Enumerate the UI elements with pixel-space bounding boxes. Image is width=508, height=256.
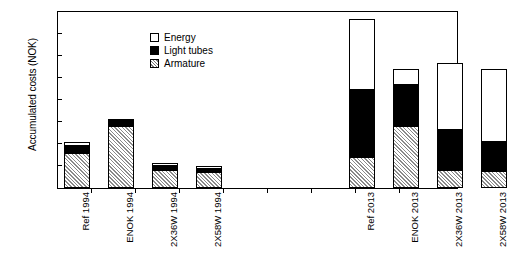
bar-segment-armature — [481, 171, 507, 188]
bar-enok-2013 — [393, 69, 419, 188]
legend-label-energy: Energy — [164, 31, 196, 44]
bar-2x36w-1994 — [152, 163, 178, 188]
legend-item-armature: Armature — [150, 57, 213, 70]
x-tick-mark-3 — [179, 188, 180, 193]
y-axis-title: Accumulated costs (NOK) — [27, 0, 38, 190]
x-tick-mark-4 — [223, 188, 224, 193]
bar-segment-energy — [108, 119, 134, 121]
x-tick-mark-5 — [267, 188, 268, 193]
bar-segment-energy — [393, 69, 419, 84]
bar-segment-light-tubes — [108, 121, 134, 126]
y-tick-mark-5000 — [58, 165, 62, 166]
y-tick-mark-30000 — [58, 55, 62, 56]
bar-segment-energy — [64, 142, 90, 146]
legend-swatch-light-tubes-icon — [150, 46, 159, 55]
bar-ref-2013 — [349, 19, 375, 188]
x-tick-label-ref-2013: Ref 2013 — [366, 192, 376, 256]
bar-2x36w-2013 — [437, 63, 463, 188]
bar-segment-light-tubes — [349, 90, 375, 157]
y-tick-mark-10000 — [58, 143, 62, 144]
legend-label-armature: Armature — [164, 57, 205, 70]
bar-segment-energy — [152, 163, 178, 166]
bar-segment-armature — [196, 172, 222, 188]
bar-segment-energy — [481, 69, 507, 142]
x-tick-label-2x58w-1994: 2X58W 1994 — [213, 192, 223, 256]
x-tick-label-2x36w-1994: 2X36W 1994 — [169, 192, 179, 256]
legend-item-light-tubes: Light tubes — [150, 44, 213, 57]
bar-segment-light-tubes — [152, 166, 178, 170]
bar-segment-light-tubes — [481, 142, 507, 172]
x-tick-mark-1 — [91, 188, 92, 193]
x-tick-mark-7 — [355, 188, 356, 193]
bar-segment-energy — [437, 63, 463, 130]
x-tick-label-2x58w-2013: 2X58W 2013 — [498, 192, 508, 256]
bar-segment-energy — [349, 19, 375, 91]
bar-segment-armature — [349, 157, 375, 188]
legend-swatch-armature-icon — [150, 59, 159, 68]
x-tick-mark-8 — [399, 188, 400, 193]
y-tick-mark-20000 — [58, 99, 62, 100]
bar-segment-armature — [393, 126, 419, 189]
bar-segment-armature — [108, 126, 134, 189]
legend-label-light-tubes: Light tubes — [164, 44, 213, 57]
chart-legend: Energy Light tubes Armature — [150, 31, 213, 70]
x-tick-label-2x36w-2013: 2X36W 2013 — [454, 192, 464, 256]
bar-2x58w-1994 — [196, 166, 222, 188]
y-tick-mark-25000 — [58, 77, 62, 78]
bar-segment-armature — [437, 170, 463, 189]
bar-segment-light-tubes — [393, 85, 419, 126]
plot-area: Energy Light tubes Armature — [57, 11, 458, 189]
x-tick-label-ref-1994: Ref 1994 — [81, 192, 91, 256]
y-tick-mark-15000 — [58, 121, 62, 122]
bar-segment-energy — [196, 166, 222, 169]
bar-segment-light-tubes — [64, 146, 90, 153]
bar-enok-1994 — [108, 120, 134, 188]
bar-segment-light-tubes — [437, 130, 463, 170]
legend-item-energy: Energy — [150, 31, 213, 44]
bar-segment-light-tubes — [196, 169, 222, 172]
x-tick-label-enok-1994: ENOK 1994 — [125, 192, 135, 256]
bar-2x58w-2013 — [481, 69, 507, 188]
bar-segment-armature — [64, 153, 90, 188]
legend-swatch-energy-icon — [150, 33, 159, 42]
bar-segment-armature — [152, 170, 178, 188]
x-tick-mark-2 — [135, 188, 136, 193]
x-tick-mark-6 — [311, 188, 312, 193]
bar-ref-1994 — [64, 142, 90, 188]
x-tick-label-enok-2013: ENOK 2013 — [410, 192, 420, 256]
y-tick-mark-35000 — [58, 33, 62, 34]
